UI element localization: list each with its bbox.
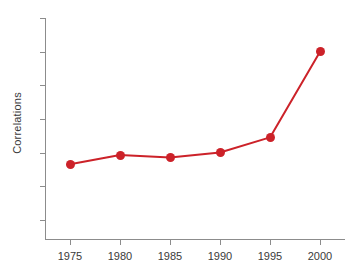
x-tick-label: 1985 xyxy=(148,250,192,262)
x-tick xyxy=(70,240,71,245)
data-point-marker xyxy=(266,133,275,142)
y-axis-label-text: Correlations xyxy=(11,92,23,154)
x-tick-label: 1995 xyxy=(248,250,292,262)
y-axis-label: Correlations xyxy=(6,0,28,245)
x-tick xyxy=(120,240,121,245)
figure-panel: Correlations .10.12.14.16.18.20.22 19751… xyxy=(0,0,350,270)
data-point-marker xyxy=(166,153,175,162)
x-tick xyxy=(170,240,171,245)
data-point-marker xyxy=(216,148,225,157)
plot-area: .10.12.14.16.18.20.22 197519801985199019… xyxy=(45,18,345,240)
x-tick-label: 1975 xyxy=(48,250,92,262)
x-tick-label: 1990 xyxy=(198,250,242,262)
data-line xyxy=(70,52,320,165)
data-point-marker xyxy=(116,151,125,160)
x-tick xyxy=(320,240,321,245)
caption-strip xyxy=(0,262,350,270)
data-point-marker xyxy=(66,160,75,169)
data-point-marker xyxy=(316,47,325,56)
x-tick xyxy=(270,240,271,245)
x-tick-label: 2000 xyxy=(298,250,342,262)
x-tick xyxy=(220,240,221,245)
x-tick-label: 1980 xyxy=(98,250,142,262)
data-layer xyxy=(45,18,345,240)
